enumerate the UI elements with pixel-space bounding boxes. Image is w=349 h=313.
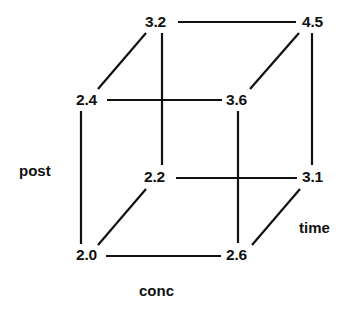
axis-label-post: post bbox=[19, 162, 51, 179]
vertex-label-front-bottom-right: 2.6 bbox=[226, 247, 247, 263]
edge-depth-top-left bbox=[98, 33, 146, 89]
axis-label-conc: conc bbox=[139, 282, 174, 299]
edge-depth-top-right bbox=[250, 33, 299, 89]
vertex-label-front-bottom-left: 2.0 bbox=[76, 247, 97, 263]
vertex-label-front-top-right: 3.6 bbox=[226, 92, 247, 108]
edge-depth-bottom-right bbox=[252, 189, 300, 245]
edge-depth-bottom-left bbox=[98, 189, 146, 245]
axis-label-time: time bbox=[299, 219, 330, 236]
vertex-label-back-top-right: 4.5 bbox=[302, 14, 323, 30]
vertex-label-front-top-left: 2.4 bbox=[76, 92, 97, 108]
vertex-label-back-bottom-left: 2.2 bbox=[144, 169, 165, 185]
vertex-label-back-bottom-right: 3.1 bbox=[302, 169, 323, 185]
vertex-label-back-top-left: 3.2 bbox=[145, 14, 166, 30]
cube-plot-figure: 3.2 4.5 2.4 3.6 2.2 3.1 2.0 2.6 post con… bbox=[0, 0, 349, 313]
cube-wireframe bbox=[0, 0, 349, 313]
